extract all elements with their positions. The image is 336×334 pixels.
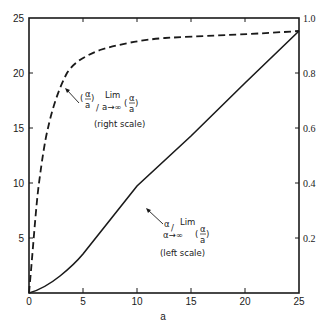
y-right-tick-0.8: 0.8 (303, 68, 316, 79)
paren-close-3: ) (206, 229, 209, 239)
annot-a-2: a (129, 104, 134, 114)
y-right-tick-labels: 0.2 0.4 0.6 0.8 1.0 (303, 13, 316, 244)
paren-close-2: ) (135, 98, 138, 108)
x-tick-5: 5 (80, 296, 86, 307)
x-tick-10: 10 (131, 296, 143, 307)
annot-a-3: a (200, 235, 205, 245)
annot-lim-2: Lim (180, 217, 195, 227)
y-right-tick-0.2: 0.2 (303, 233, 316, 244)
y-left-tick-10: 10 (13, 178, 25, 189)
x-tick-25: 25 (293, 296, 305, 307)
y-left-tick-25: 25 (13, 13, 25, 24)
solid-annotation-arrow (146, 208, 163, 224)
y-left-tick-15: 15 (13, 123, 25, 134)
annot-sub-2: α→∞ (163, 230, 183, 240)
y-right-tick-1.0: 1.0 (303, 13, 316, 24)
x-tick-20: 20 (239, 296, 251, 307)
annot-a-1: a (85, 100, 90, 110)
chart: 0 5 10 15 20 25 a 5 10 15 20 25 0.2 0.4 … (0, 0, 336, 334)
annot-sub-1: a→∞ (102, 102, 121, 112)
y-right-tick-0.4: 0.4 (303, 178, 316, 189)
x-axis-label: a (160, 311, 166, 322)
x-tick-labels: 0 5 10 15 20 25 (26, 296, 305, 307)
y-left-tick-20: 20 (13, 68, 25, 79)
y-right-tick-0.6: 0.6 (303, 123, 316, 134)
dashed-annotation: ( α a ) / Lim a→∞ ( α a ) (right scale) (80, 89, 145, 129)
y-left-tick-5: 5 (18, 233, 24, 244)
dashed-annotation-arrow (65, 88, 79, 103)
solid-annotation: α / Lim α→∞ ( α a ) (left scale) (160, 217, 209, 258)
y-left-tick-labels: 5 10 15 20 25 (13, 13, 25, 244)
paren-open-3: ( (195, 229, 198, 239)
annot-lim-1: Lim (105, 90, 120, 100)
x-tick-0: 0 (26, 296, 32, 307)
annot-right-scale: (right scale) (94, 119, 145, 129)
annot-alpha-3: α (164, 219, 170, 229)
slash-1: / (96, 103, 99, 113)
paren-close-1: ) (91, 93, 94, 103)
annot-left-scale: (left scale) (160, 248, 205, 258)
paren-open-1: ( (80, 93, 83, 103)
paren-open-2: ( (124, 98, 127, 108)
x-tick-15: 15 (185, 296, 197, 307)
